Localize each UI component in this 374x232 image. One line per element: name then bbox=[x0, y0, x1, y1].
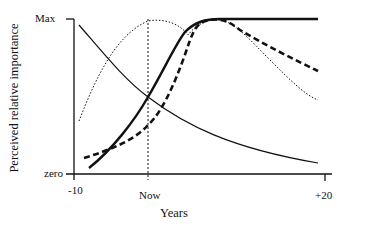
y-axis-title: Perceived relative importance bbox=[7, 23, 22, 172]
x-tick-left: -10 bbox=[68, 184, 83, 196]
series-thick-solid bbox=[89, 19, 318, 168]
x-axis-title: Years bbox=[160, 206, 188, 221]
max-label: Max bbox=[35, 12, 55, 24]
zero-label: zero bbox=[44, 167, 63, 179]
series-thin-dotted bbox=[79, 20, 318, 121]
x-tick-right: +20 bbox=[315, 189, 332, 201]
x-tick-now: Now bbox=[139, 189, 160, 201]
